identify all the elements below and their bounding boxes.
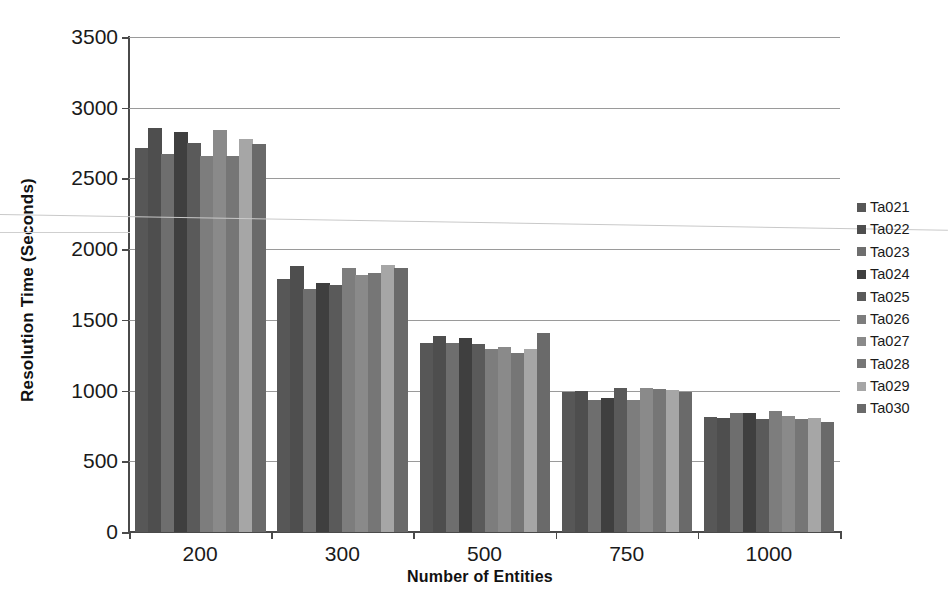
legend-label: Ta022: [870, 222, 910, 237]
legend-item-ta024[interactable]: Ta024: [857, 263, 947, 285]
y-tick-mark: [122, 37, 129, 39]
bar: [717, 418, 731, 532]
bar: [588, 400, 602, 532]
legend-swatch-icon: [857, 292, 866, 301]
bar: [381, 265, 395, 532]
x-tick-mark: [271, 531, 273, 539]
x-tick-mark: [413, 531, 415, 539]
legend-swatch-icon: [857, 404, 866, 413]
bar: [433, 336, 447, 532]
y-tick-label: 2500: [71, 166, 118, 190]
y-tick-label: 1000: [71, 379, 118, 403]
bar: [290, 266, 304, 532]
legend-label: Ta023: [870, 245, 910, 260]
legend-label: Ta028: [870, 357, 910, 372]
bar: [756, 419, 770, 532]
plot-area: 0500100015002000250030003500: [129, 37, 840, 532]
y-tick-label: 1500: [71, 308, 118, 332]
bar: [795, 419, 809, 532]
x-tick-label: 750: [609, 542, 644, 566]
legend-swatch-icon: [857, 359, 866, 368]
legend-swatch-icon: [857, 225, 866, 234]
x-tick-label: 300: [325, 542, 360, 566]
bar: [498, 347, 512, 532]
x-tick-mark: [556, 531, 558, 539]
x-tick-label: 500: [467, 542, 502, 566]
bar: [524, 349, 538, 532]
legend-swatch-icon: [857, 270, 866, 279]
bar: [277, 279, 291, 532]
bar: [187, 143, 201, 532]
bar: [640, 388, 654, 532]
bar: [679, 392, 693, 532]
bar-chart: Resolution Time (Seconds) 05001000150020…: [0, 0, 948, 605]
bar: [252, 144, 266, 532]
legend-item-ta028[interactable]: Ta028: [857, 353, 947, 375]
bar-group: [277, 37, 407, 532]
x-tick-mark: [129, 531, 131, 539]
bar: [342, 268, 356, 532]
bar: [329, 285, 343, 532]
bar: [821, 422, 835, 532]
x-axis-title: Number of Entities: [120, 568, 840, 586]
y-tick-mark: [122, 249, 129, 251]
bar: [562, 392, 576, 532]
legend-label: Ta029: [870, 379, 910, 394]
bar: [394, 268, 408, 532]
bar: [303, 289, 317, 532]
bar-group: [562, 37, 692, 532]
legend-item-ta030[interactable]: Ta030: [857, 398, 947, 420]
legend-item-ta027[interactable]: Ta027: [857, 330, 947, 352]
y-tick-mark: [122, 532, 129, 534]
bar: [239, 139, 253, 532]
bar-group: [704, 37, 834, 532]
x-tick-label: 1000: [746, 542, 793, 566]
bar: [485, 349, 499, 532]
bar: [769, 411, 783, 532]
legend-swatch-icon: [857, 247, 866, 256]
bar: [200, 156, 214, 532]
legend-label: Ta025: [870, 290, 910, 305]
bar: [511, 353, 525, 532]
x-tick-mark: [840, 531, 842, 539]
legend-label: Ta027: [870, 334, 910, 349]
bar: [653, 389, 667, 532]
bar: [420, 343, 434, 533]
y-tick-label: 0: [106, 520, 118, 544]
bar: [782, 416, 796, 532]
legend-item-ta025[interactable]: Ta025: [857, 286, 947, 308]
y-tick-mark: [122, 461, 129, 463]
y-tick-label: 3500: [71, 25, 118, 49]
legend-swatch-icon: [857, 315, 866, 324]
bar: [743, 413, 757, 532]
bar: [614, 388, 628, 532]
bar: [446, 343, 460, 533]
bar: [135, 148, 149, 532]
legend-label: Ta021: [870, 200, 910, 215]
legend-item-ta023[interactable]: Ta023: [857, 241, 947, 263]
y-axis-title: Resolution Time (Seconds): [18, 120, 38, 460]
bar: [627, 400, 641, 532]
legend-item-ta026[interactable]: Ta026: [857, 308, 947, 330]
bar: [213, 130, 227, 532]
y-tick-label: 500: [83, 449, 118, 473]
legend-item-ta022[interactable]: Ta022: [857, 218, 947, 240]
y-tick-mark: [122, 108, 129, 110]
bar: [316, 283, 330, 532]
bar: [355, 275, 369, 532]
legend-label: Ta026: [870, 312, 910, 327]
x-tick-mark: [698, 531, 700, 539]
y-tick-label: 2000: [71, 237, 118, 261]
legend: Ta021Ta022Ta023Ta024Ta025Ta026Ta027Ta028…: [857, 196, 947, 420]
legend-item-ta021[interactable]: Ta021: [857, 196, 947, 218]
bar-group: [420, 37, 550, 532]
bar: [575, 391, 589, 532]
legend-item-ta029[interactable]: Ta029: [857, 375, 947, 397]
bar: [666, 390, 680, 532]
bar: [226, 156, 240, 532]
bar: [459, 338, 473, 532]
x-tick-label: 200: [183, 542, 218, 566]
bar: [174, 132, 188, 532]
bar: [148, 128, 162, 532]
bar: [472, 344, 486, 532]
